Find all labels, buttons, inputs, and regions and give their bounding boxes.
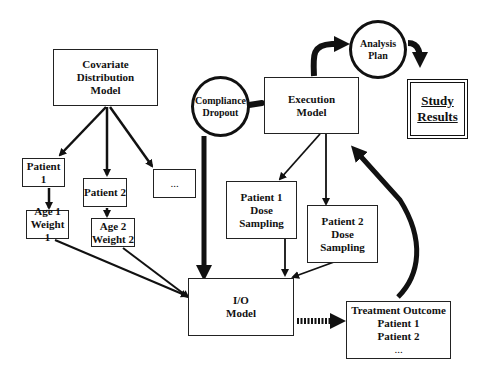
age2-weight2-box: Age 2 Weight 2 [91,218,135,247]
execution-label-line1: Execution [288,93,335,106]
study-label: Study [417,93,457,109]
io-line2: Model [226,307,256,320]
execution-label-line2: Model [288,106,335,119]
weight1-label: Weight 1 [27,218,68,244]
compliance-dropout-circle: Compliance Dropout [191,76,250,137]
edge-analysis-results [408,43,420,62]
p1dose-line3: Sampling [239,217,284,230]
covariate-label-line2: Model [54,84,157,97]
ellipsis-label: ... [170,177,178,190]
p2dose-line2: Dose [320,228,365,241]
analysis-plan-circle: Analysis Plan [349,20,407,79]
compliance-label: Compliance [195,95,246,107]
edge-covariate-patient1 [60,107,106,155]
ellipsis-box: ... [153,169,196,198]
edge-age1-io [55,240,187,296]
treatment-outcome-box: Treatment Outcome Patient 1 Patient 2 ..… [346,301,451,359]
covariate-distribution-model-box: Covariate Distribution Model [53,49,158,106]
edge-execution-p1dose [280,134,320,179]
p1dose-line2: Dose [239,204,284,217]
p2dose-line1: Patient 2 [320,215,365,228]
treatment-line1: Treatment Outcome [351,304,446,317]
age1-label: Age 1 [27,205,68,218]
p1dose-line1: Patient 1 [239,191,284,204]
dropout-label: Dropout [195,107,246,119]
results-label: Results [417,109,457,125]
age1-weight1-box: Age 1 Weight 1 [26,210,69,239]
io-line1: I/O [226,294,256,307]
plan-label: Plan [360,50,396,62]
execution-model-box: Execution Model [264,77,359,134]
patient1-dose-sampling-box: Patient 1 Dose Sampling [226,181,297,239]
edge-execution-analysis [314,44,344,76]
edge-compliance-execution [249,103,262,105]
study-results-box: Study Results [407,79,468,139]
patient1-box: Patient 1 [22,158,65,187]
analysis-label: Analysis [360,38,396,50]
treatment-line4: ... [351,343,446,356]
patient1-label: Patient 1 [23,160,64,186]
edge-covariate-ellipsis [110,107,152,166]
io-model-box: I/O Model [188,278,294,336]
age2-label: Age 2 [92,220,134,233]
treatment-line3: Patient 2 [351,330,446,343]
weight2-label: Weight 2 [92,233,134,246]
treatment-line2: Patient 1 [351,317,446,330]
patient2-dose-sampling-box: Patient 2 Dose Sampling [307,205,378,263]
p2dose-line3: Sampling [320,241,365,254]
patient2-label: Patient 2 [84,186,126,199]
edge-p2dose-io [293,262,334,277]
covariate-label-line1: Covariate Distribution [54,58,157,84]
patient2-box: Patient 2 [83,178,127,207]
